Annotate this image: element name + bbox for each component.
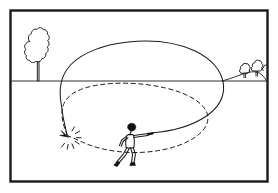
page-background <box>0 0 278 193</box>
front-foot <box>130 162 136 165</box>
illustration-canvas <box>0 0 278 193</box>
boomerang-flight-illustration <box>0 0 278 193</box>
head <box>128 123 136 131</box>
